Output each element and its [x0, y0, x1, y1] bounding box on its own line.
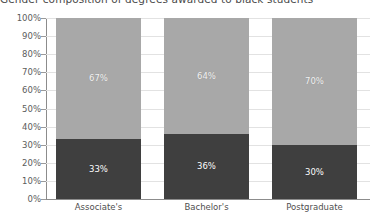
y-axis-tick: [41, 199, 46, 200]
x-axis-label-2: Bachelor's: [152, 203, 262, 212]
bar-segment-lower-label: 36%: [197, 162, 216, 171]
y-axis-label: 0%: [1, 195, 41, 204]
bar-3[interactable]: 70%30%: [272, 18, 357, 199]
y-axis-label: 30%: [1, 141, 41, 150]
y-axis-tick: [41, 54, 46, 55]
y-axis-tick: [41, 145, 46, 146]
y-axis-tick: [41, 163, 46, 164]
bar-1[interactable]: 67%33%: [56, 18, 141, 199]
y-axis-label: 90%: [1, 32, 41, 41]
bar-2[interactable]: 64%36%: [164, 18, 249, 199]
y-axis-tick: [41, 181, 46, 182]
y-axis-tick: [41, 109, 46, 110]
bar-segment-lower[interactable]: 36%: [164, 134, 249, 199]
chart-title: Gender composition of degrees awarded to…: [0, 0, 370, 9]
y-axis-label: 20%: [1, 159, 41, 168]
y-axis-tick: [41, 90, 46, 91]
bar-segment-upper[interactable]: 67%: [56, 18, 141, 139]
y-axis-tick: [41, 18, 46, 19]
bar-segment-upper-label: 67%: [89, 74, 108, 83]
bar-segment-lower[interactable]: 33%: [56, 139, 141, 199]
y-axis-label: 70%: [1, 68, 41, 77]
x-axis-label-1: Associate's: [44, 203, 154, 212]
y-axis-tick: [41, 72, 46, 73]
bar-segment-upper-label: 64%: [197, 72, 216, 81]
bar-segment-upper[interactable]: 70%: [272, 18, 357, 145]
bar-segment-upper-label: 70%: [305, 77, 324, 86]
x-axis-label-3: Postgraduate: [260, 203, 370, 212]
y-axis-label: 60%: [1, 86, 41, 95]
bar-segment-lower-label: 30%: [305, 168, 324, 177]
chart-container: Gender composition of degrees awarded to…: [0, 0, 370, 216]
y-axis-label: 80%: [1, 50, 41, 59]
bar-segment-upper[interactable]: 64%: [164, 18, 249, 134]
y-axis-label: 40%: [1, 123, 41, 132]
bar-segment-lower[interactable]: 30%: [272, 145, 357, 199]
bar-segment-lower-label: 33%: [89, 165, 108, 174]
plot-area: 0%10%20%30%40%50%60%70%80%90%100%67%33%6…: [46, 18, 370, 199]
y-axis-label: 100%: [1, 14, 41, 23]
y-axis-label: 10%: [1, 177, 41, 186]
y-axis-tick: [41, 36, 46, 37]
y-axis-tick: [41, 127, 46, 128]
x-axis-line: [46, 199, 370, 200]
y-axis-label: 50%: [1, 105, 41, 114]
